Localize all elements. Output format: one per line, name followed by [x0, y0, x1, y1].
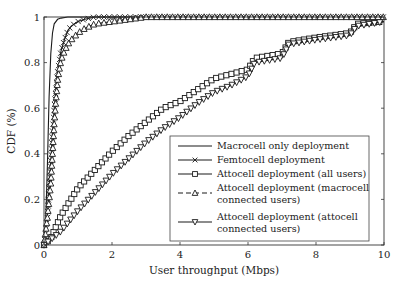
y-tick-label: 1	[34, 12, 40, 23]
x-tick-label: 8	[313, 249, 319, 260]
y-tick-label: 0.4	[24, 148, 40, 159]
legend-item-femtocell: Femtocell deployment	[217, 154, 325, 165]
x-tick-label: 4	[177, 249, 183, 260]
y-tick-label: 0.2	[24, 194, 40, 205]
legend-item-attocell-all: Attocell deployment (all users)	[216, 168, 366, 179]
y-tick-label: 0.8	[24, 57, 40, 68]
cdf-chart: 024681000.20.40.60.81 User throughput (M…	[0, 0, 396, 285]
legend-item-attocell-macro-line2: connected users)	[217, 194, 300, 205]
legend-item-macrocell: Macrocell only deployment	[217, 140, 349, 151]
x-tick-label: 2	[109, 249, 115, 260]
y-tick-label: 0	[34, 240, 40, 251]
y-axis-label: CDF (%)	[5, 108, 17, 153]
legend-item-attocell-atto-line2: connected users)	[217, 223, 300, 234]
legend: Macrocell only deployment Femtocell depl…	[170, 136, 369, 241]
x-tick-label: 0	[41, 249, 47, 260]
y-tick-label: 0.6	[24, 103, 40, 114]
legend-item-attocell-macro-line1: Attocell deployment (macrocell	[216, 182, 369, 193]
x-tick-label: 6	[245, 249, 251, 260]
legend-item-attocell-atto-line1: Attocell deployment (attocell	[216, 211, 358, 222]
x-tick-label: 10	[378, 249, 391, 260]
x-axis-label: User throughput (Mbps)	[149, 264, 279, 276]
